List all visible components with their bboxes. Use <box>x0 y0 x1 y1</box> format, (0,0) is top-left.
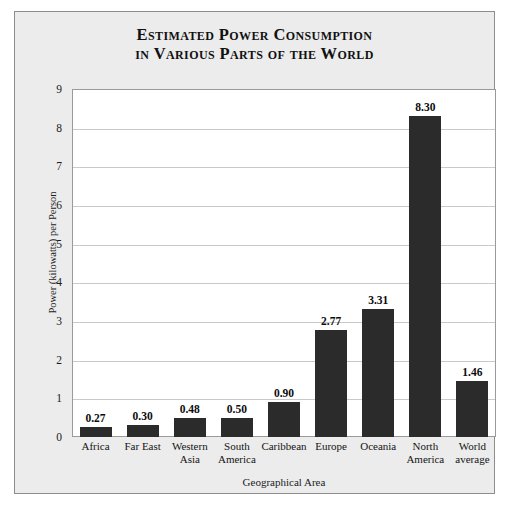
bar[interactable] <box>456 381 488 437</box>
chart-title: Estimated Power Consumption in Various P… <box>15 25 494 63</box>
y-axis-tick-label: 4 <box>22 276 62 288</box>
x-axis-tick-label-line: South <box>213 440 260 453</box>
x-axis-tick-label-line: Asia <box>166 453 213 466</box>
y-axis-tick-label: 3 <box>22 315 62 327</box>
bar-group: 0.90 <box>260 89 307 437</box>
bar-value-label: 0.50 <box>227 403 247 415</box>
y-axis-tick-labels: 0123456789 <box>15 12 72 516</box>
bar[interactable] <box>409 116 441 437</box>
bar-value-label: 0.90 <box>274 387 294 399</box>
x-axis-tick-label: Africa <box>72 440 119 453</box>
bar[interactable] <box>315 330 347 437</box>
bar-group: 0.50 <box>213 89 260 437</box>
bar-group: 0.48 <box>166 89 213 437</box>
bar-group: 3.31 <box>355 89 402 437</box>
x-axis-tick-label: NorthAmerica <box>402 440 449 466</box>
x-axis-tick-label: Europe <box>308 440 355 453</box>
bar-value-label: 2.77 <box>321 315 341 327</box>
y-axis-tick-label: 1 <box>22 392 62 404</box>
bar[interactable] <box>174 418 206 437</box>
bar-group: 8.30 <box>402 89 449 437</box>
y-axis-tick-label: 0 <box>22 431 62 443</box>
chart-title-line-2-text: in Various Parts of the World <box>15 44 494 63</box>
bar-group: 2.77 <box>308 89 355 437</box>
bar[interactable] <box>362 309 394 437</box>
x-axis-tick-label-line: America <box>402 453 449 466</box>
y-axis-tick-label: 5 <box>22 238 62 250</box>
bar-value-label: 0.30 <box>133 410 153 422</box>
bar-group: 0.30 <box>119 89 166 437</box>
x-axis-tick-label-line: average <box>449 453 496 466</box>
bar-group: 1.46 <box>449 89 496 437</box>
x-axis-tick-label: SouthAmerica <box>213 440 260 466</box>
x-axis-tick-label-line: America <box>213 453 260 466</box>
y-axis-tick-label: 7 <box>22 160 62 172</box>
x-axis-tick-label: Oceania <box>355 440 402 453</box>
chart-title-line-1-text: Estimated Power Consumption <box>137 25 373 44</box>
bar[interactable] <box>221 418 253 437</box>
bar[interactable] <box>127 425 159 437</box>
bar-value-label: 8.30 <box>415 101 435 113</box>
bar[interactable] <box>80 427 112 437</box>
x-axis-tick-label: WesternAsia <box>166 440 213 466</box>
bar-value-label: 0.48 <box>180 403 200 415</box>
bar-value-label: 0.27 <box>85 412 105 424</box>
y-axis-tick-label: 6 <box>22 199 62 211</box>
bar-value-label: 3.31 <box>368 294 388 306</box>
y-axis-tick-label: 9 <box>22 83 62 95</box>
bars-layer: 0.270.300.480.500.902.773.318.301.46 <box>72 89 496 437</box>
x-axis-tick-label: Far East <box>119 440 166 453</box>
x-axis-tick-label: Worldaverage <box>449 440 496 466</box>
bar[interactable] <box>268 402 300 437</box>
x-axis-tick-label-line: World <box>449 440 496 453</box>
bar-group: 0.27 <box>72 89 119 437</box>
x-axis-tick-label: Caribbean <box>260 440 307 453</box>
y-axis-tick-label: 8 <box>22 122 62 134</box>
x-axis-tick-label-line: Western <box>166 440 213 453</box>
y-axis-tick-label: 2 <box>22 354 62 366</box>
bar-value-label: 1.46 <box>462 366 482 378</box>
figure-frame: Estimated Power Consumption in Various P… <box>14 11 495 494</box>
x-axis-title: Geographical Area <box>72 476 496 488</box>
x-axis-tick-label-line: North <box>402 440 449 453</box>
